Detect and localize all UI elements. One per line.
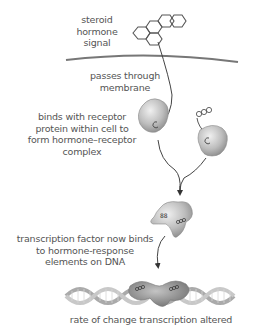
receptor-protein-2-icon — [198, 125, 227, 156]
hormone-small-icon — [196, 107, 211, 116]
converge-right-line — [180, 158, 206, 190]
label-line: hormone — [72, 26, 122, 38]
cell-membrane — [66, 55, 238, 62]
label-line: steroid — [72, 14, 122, 26]
label-line: binds with receptor — [26, 111, 138, 123]
label-rate-of-change: rate of change transcription altered — [68, 314, 234, 326]
svg-text:88: 88 — [160, 212, 168, 219]
hormone-receptor-complex-icon: 88 — [151, 202, 193, 238]
steroid-hormone-icon — [133, 15, 186, 45]
complex-to-dna-arrow — [157, 236, 165, 266]
label-line: transcription factor now binds — [14, 233, 156, 245]
converge-left-line — [158, 140, 180, 190]
diagram-artwork: 88 — [0, 0, 253, 332]
label-line: form hormone–receptor — [26, 134, 138, 146]
label-line: elements on DNA — [14, 256, 156, 268]
label-line: to hormone-response — [14, 245, 156, 257]
label-line: complex — [26, 146, 138, 158]
label-transcription-factor: transcription factor now binds to hormon… — [14, 233, 156, 268]
label-line: rate of change transcription altered — [68, 314, 234, 326]
label-binds-with-receptor: binds with receptor protein within cell … — [26, 111, 138, 157]
label-line: passes through — [88, 70, 162, 82]
label-line: protein within cell to — [26, 123, 138, 135]
label-steroid-hormone-signal: steroid hormone signal — [72, 14, 122, 49]
label-line: membrane — [88, 82, 162, 94]
label-line: signal — [72, 37, 122, 49]
receptor-protein-1-icon — [138, 99, 168, 132]
label-passes-through-membrane: passes through membrane — [88, 70, 162, 93]
